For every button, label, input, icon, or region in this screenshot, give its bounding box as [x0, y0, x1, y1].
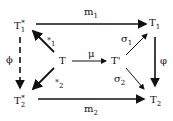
- edge-sub: 1: [51, 40, 55, 48]
- node-T2-star: T2*: [14, 93, 25, 110]
- node-base: T: [59, 55, 66, 66]
- arrow-sigma2: [126, 68, 144, 89]
- node-sub: 2: [21, 101, 25, 109]
- node-sub: 2: [157, 100, 161, 108]
- node-T1: T1: [149, 18, 160, 32]
- arrow-e2: [33, 68, 54, 89]
- node-base: T': [111, 55, 120, 66]
- node-sup: *: [21, 19, 25, 27]
- node-T-prime: T': [111, 56, 120, 66]
- node-base: T: [149, 17, 156, 28]
- edge-base: μ: [88, 48, 95, 59]
- edge-sub: 2: [93, 109, 97, 117]
- node-base: T: [14, 95, 21, 106]
- label-phi-right: φ: [160, 56, 167, 66]
- label-sigma2: σ2: [114, 74, 125, 88]
- edge-base: ϕ: [6, 54, 13, 65]
- label-m1: m1: [84, 7, 98, 21]
- label-e2: *2: [55, 78, 63, 91]
- node-sub: 1: [156, 23, 160, 31]
- label-e1: *1: [47, 36, 55, 49]
- edge-sub: 1: [93, 12, 97, 20]
- node-T2: T2: [150, 95, 161, 109]
- node-sub: 1: [21, 26, 25, 34]
- node-base: T: [14, 20, 21, 31]
- edge-sub: 2: [59, 82, 63, 90]
- node-T1-star: T1*: [14, 18, 25, 35]
- node-T: T: [59, 56, 66, 66]
- edge-sub: 2: [121, 79, 125, 87]
- label-sigma1: σ1: [121, 34, 132, 48]
- label-mu: μ: [88, 49, 95, 59]
- edge-base: σ: [121, 33, 128, 44]
- edge-base: σ: [114, 73, 121, 84]
- node-base: T: [150, 94, 157, 105]
- label-phi-left: ϕ: [6, 55, 13, 65]
- edge-sub: 1: [128, 39, 132, 47]
- label-m2: m2: [84, 104, 98, 118]
- node-sup: *: [21, 94, 25, 102]
- edge-base: φ: [160, 55, 167, 66]
